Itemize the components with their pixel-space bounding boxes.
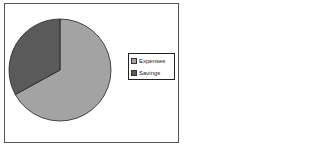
legend-item-expenses: Expenses: [131, 56, 174, 66]
legend-label: Expenses: [139, 58, 165, 64]
legend-item-savings: Savings: [131, 68, 174, 78]
legend-label: Savings: [139, 70, 160, 76]
legend-swatch-savings: [131, 70, 137, 76]
legend-swatch-expenses: [131, 58, 137, 64]
legend: Expenses Savings: [128, 53, 175, 80]
